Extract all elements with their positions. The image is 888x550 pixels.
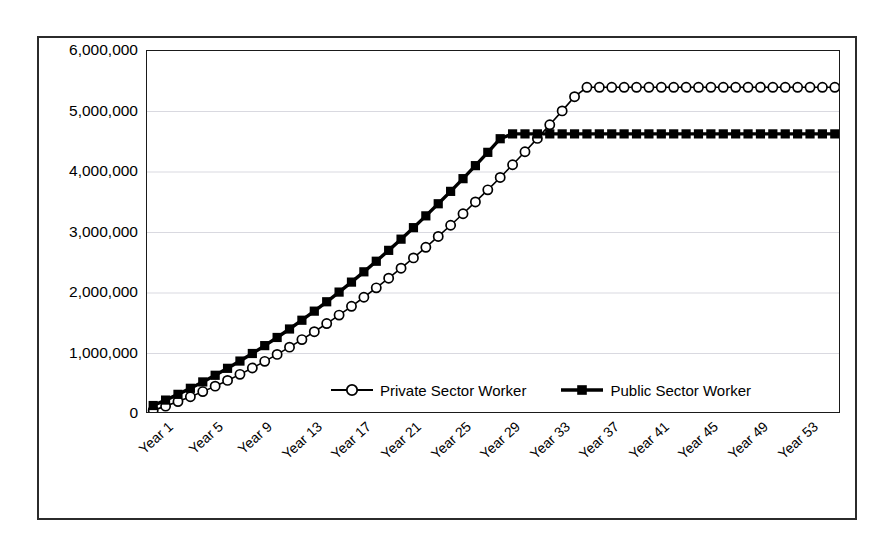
data-point-marker	[186, 384, 195, 393]
data-point-marker	[211, 382, 220, 391]
x-axis-tick-label: Year 41	[626, 419, 671, 461]
plot-area	[146, 50, 840, 413]
data-point-marker	[223, 364, 232, 373]
data-point-marker	[681, 129, 690, 138]
legend-entry: Public Sector Worker	[560, 382, 751, 398]
data-point-marker	[483, 185, 492, 194]
data-point-marker	[297, 316, 306, 325]
data-point-marker	[434, 232, 443, 241]
legend-label: Private Sector Worker	[380, 383, 526, 398]
data-point-marker	[483, 148, 492, 157]
data-point-marker	[458, 209, 467, 218]
data-point-marker	[694, 129, 703, 138]
data-point-marker	[334, 310, 343, 319]
data-point-marker	[595, 83, 604, 92]
data-point-marker	[570, 92, 579, 101]
data-point-marker	[446, 221, 455, 230]
data-point-marker	[607, 129, 616, 138]
data-point-marker	[297, 335, 306, 344]
y-axis-tick-label: 3,000,000	[69, 224, 138, 240]
x-axis-tick-label: Year 45	[676, 419, 721, 461]
data-point-marker	[582, 83, 591, 92]
data-point-marker	[731, 129, 740, 138]
data-point-marker	[669, 129, 678, 138]
data-point-marker	[285, 324, 294, 333]
x-axis-tick-label: Year 13	[279, 419, 324, 461]
data-point-marker	[805, 83, 814, 92]
data-point-marker	[471, 161, 480, 170]
data-point-marker	[657, 129, 666, 138]
data-point-marker	[830, 129, 839, 138]
data-point-marker	[421, 243, 430, 252]
data-point-marker	[149, 401, 158, 410]
data-point-marker	[743, 83, 752, 92]
data-point-marker	[334, 287, 343, 296]
x-axis-tick-label: Year 33	[527, 419, 572, 461]
data-point-marker	[756, 83, 765, 92]
data-point-marker	[743, 129, 752, 138]
data-point-marker	[186, 392, 195, 401]
x-axis-tick-label: Year 17	[329, 419, 374, 461]
data-point-marker	[496, 134, 505, 143]
data-point-marker	[520, 147, 529, 156]
data-point-marker	[818, 129, 827, 138]
data-point-marker	[632, 129, 641, 138]
data-point-marker	[508, 160, 517, 169]
chart-screenshot: 6,000,0005,000,0004,000,0003,000,0002,00…	[0, 0, 888, 550]
data-point-marker	[446, 187, 455, 196]
data-point-marker	[570, 129, 579, 138]
data-point-marker	[607, 83, 616, 92]
open-circle-icon	[330, 382, 374, 398]
data-point-marker	[409, 253, 418, 262]
data-point-marker	[756, 129, 765, 138]
data-point-marker	[620, 83, 629, 92]
data-point-marker	[235, 356, 244, 365]
data-point-marker	[520, 129, 529, 138]
data-point-marker	[558, 106, 567, 115]
data-point-marker	[595, 129, 604, 138]
x-axis-tick-label: Year 9	[236, 419, 275, 456]
data-point-marker	[260, 341, 269, 350]
data-point-marker	[384, 274, 393, 283]
chart-series-svg	[147, 51, 839, 412]
x-axis-tick-label: Year 53	[775, 419, 820, 461]
data-point-marker	[793, 83, 802, 92]
data-point-marker	[620, 129, 629, 138]
data-point-marker	[458, 174, 467, 183]
data-point-marker	[211, 371, 220, 380]
data-point-marker	[347, 302, 356, 311]
x-axis-tick-label: Year 25	[428, 419, 473, 461]
data-point-marker	[706, 83, 715, 92]
data-point-marker	[409, 223, 418, 232]
data-point-marker	[694, 83, 703, 92]
data-point-marker	[496, 173, 505, 182]
data-point-marker	[273, 333, 282, 342]
data-point-marker	[681, 83, 690, 92]
data-point-marker	[731, 83, 740, 92]
data-point-marker	[273, 350, 282, 359]
data-point-marker	[310, 327, 319, 336]
data-point-marker	[793, 129, 802, 138]
y-axis-tick-label: 1,000,000	[69, 345, 138, 361]
data-point-marker	[582, 129, 591, 138]
data-point-marker	[768, 129, 777, 138]
data-point-marker	[359, 267, 368, 276]
y-axis-tick-label: 5,000,000	[69, 103, 138, 119]
y-axis: 6,000,0005,000,0004,000,0003,000,0002,00…	[37, 36, 146, 520]
data-point-marker	[173, 390, 182, 399]
data-point-marker	[719, 83, 728, 92]
data-point-marker	[198, 377, 207, 386]
y-axis-tick-label: 6,000,000	[69, 42, 138, 58]
data-point-marker	[818, 83, 827, 92]
x-axis-tick-label: Year 37	[577, 419, 622, 461]
legend-label: Public Sector Worker	[610, 383, 751, 398]
data-point-marker	[384, 246, 393, 255]
y-axis-tick-label: 0	[129, 405, 138, 421]
data-point-marker	[421, 211, 430, 220]
y-axis-tick-label: 4,000,000	[69, 163, 138, 179]
data-point-marker	[260, 357, 269, 366]
data-point-marker	[533, 129, 542, 138]
data-point-marker	[322, 297, 331, 306]
data-point-marker	[558, 129, 567, 138]
data-point-marker	[322, 319, 331, 328]
